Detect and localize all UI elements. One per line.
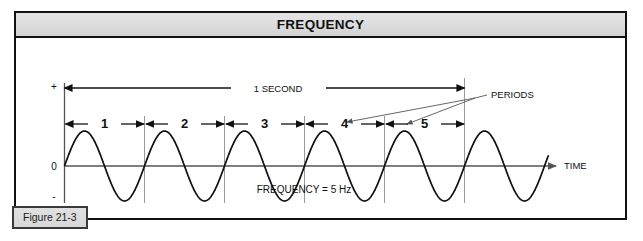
period-number-1: 1 xyxy=(101,116,108,131)
period-number-3: 3 xyxy=(261,116,268,131)
figure-frame: FREQUENCY xyxy=(14,11,627,220)
one-second-label: 1 SECOND xyxy=(254,83,303,94)
frequency-note: FREQUENCY = 5 Hz xyxy=(257,184,352,195)
figure-screenshot: FREQUENCY xyxy=(0,0,643,241)
time-axis-label: TIME xyxy=(564,160,587,171)
periods-leader-stem xyxy=(475,95,487,98)
periods-label: PERIODS xyxy=(491,89,534,100)
one-second-dimension: 1 SECOND xyxy=(65,83,465,94)
axis-label-minus: - xyxy=(52,191,55,202)
axis-label-zero: 0 xyxy=(51,161,57,172)
waveform-svg: + 0 - TIME 1 SECOND PERIODS xyxy=(16,38,625,218)
periods-leader-1 xyxy=(347,98,475,122)
page-title: FREQUENCY xyxy=(277,17,364,32)
period-number-2: 2 xyxy=(181,116,188,131)
period-number-5: 5 xyxy=(421,116,428,131)
periods-callout xyxy=(347,95,487,124)
period-number-4: 4 xyxy=(341,116,349,131)
axis-label-plus: + xyxy=(51,81,57,92)
figure-caption-text: Figure 21-3 xyxy=(23,211,77,223)
waveform-diagram: + 0 - TIME 1 SECOND PERIODS xyxy=(16,38,625,218)
figure-title-band: FREQUENCY xyxy=(16,13,625,38)
figure-caption-box: Figure 21-3 xyxy=(12,206,88,229)
